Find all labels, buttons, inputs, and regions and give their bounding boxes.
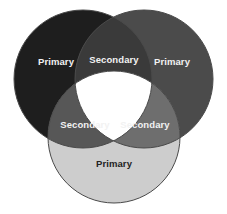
venn-diagram-canvas — [0, 0, 227, 214]
venn-diagram: Primary Secondary Primary Secondary Seco… — [0, 0, 227, 214]
